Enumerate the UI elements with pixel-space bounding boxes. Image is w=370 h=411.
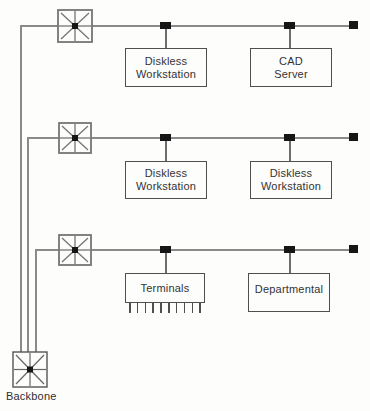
node-terminals: Terminals [125, 273, 205, 303]
bus-tap [160, 134, 171, 141]
backbone-riser-3 [35, 249, 37, 354]
node-diskless-workstation-1: Diskless Workstation [125, 48, 207, 87]
bus-tap [284, 134, 295, 141]
drop-line-row1-box1 [165, 28, 167, 48]
drop-line-row1-box2 [289, 28, 291, 48]
drop-line-row2-box2 [289, 140, 291, 161]
node-label-line: Departmental [255, 283, 323, 296]
node-label-line: Diskless [270, 167, 313, 180]
hub-icon-row2 [58, 122, 92, 154]
node-label-line: Terminals [141, 282, 190, 295]
drop-line-row3-box1 [165, 252, 167, 273]
drop-line-row3-box2 [289, 252, 291, 273]
node-label-line: Server [274, 68, 308, 81]
bus-tap [284, 22, 295, 29]
node-label-line: Diskless [145, 167, 188, 180]
node-label-line: CAD [279, 55, 303, 68]
bus-terminator [349, 133, 358, 141]
backbone-riser-1 [20, 25, 22, 354]
hub-icon-row3 [58, 234, 92, 266]
bus-tap [284, 246, 295, 253]
backbone-hub-icon [12, 351, 48, 388]
node-label-line: Diskless [145, 55, 188, 68]
node-diskless-workstation-2: Diskless Workstation [125, 161, 207, 199]
hub-icon-row1 [57, 9, 93, 43]
terminal-drop-lines [129, 303, 201, 313]
network-diagram: Backbone Diskless Workstation CAD Server… [0, 0, 370, 411]
backbone-riser-2 [27, 137, 29, 354]
bus-tap [160, 22, 171, 29]
bus-terminator [349, 245, 358, 253]
node-label-line: Workstation [136, 180, 196, 193]
node-label-line: Workstation [261, 180, 321, 193]
bus-terminator [349, 21, 358, 29]
node-diskless-workstation-3: Diskless Workstation [250, 161, 332, 199]
node-cad-server: CAD Server [250, 48, 332, 87]
node-label-line: Workstation [136, 68, 196, 81]
bus-tap [160, 246, 171, 253]
backbone-label: Backbone [6, 390, 57, 402]
node-departmental: Departmental [248, 273, 330, 312]
drop-line-row2-box1 [165, 140, 167, 161]
